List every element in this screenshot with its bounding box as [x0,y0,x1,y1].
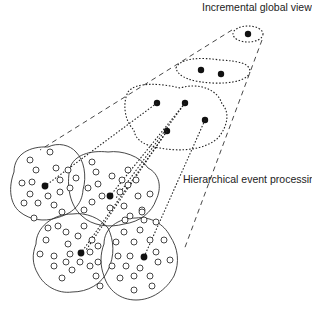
top-node [245,31,251,37]
third-cluster [125,84,227,150]
second-cluster [176,59,250,84]
hierarchy-diagram [0,0,312,311]
base-node-2 [107,193,114,200]
base-node-4 [141,254,148,261]
frustum-lines [40,30,262,250]
frustum-left-line [40,30,232,150]
frustum-right-line [184,40,262,250]
base-node-1 [42,183,49,190]
incremental-global-view-label: Incremental global view [202,1,312,13]
second-node-1 [198,67,204,73]
event-points [19,149,173,293]
base-node-3 [78,250,85,257]
hierarchical-event-processing-label: Hierarchical event processing [183,173,312,185]
second-node-2 [218,71,224,77]
